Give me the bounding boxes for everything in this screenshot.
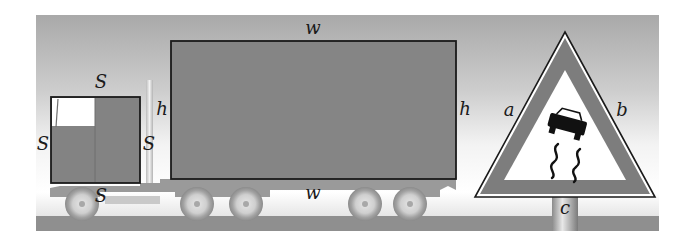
- label-container-right: h: [459, 98, 471, 119]
- label-sign-base: c: [560, 197, 570, 218]
- cab-square: [51, 97, 140, 183]
- fuel-tank: [105, 196, 160, 204]
- label-container-left: h: [156, 98, 168, 119]
- exhaust-stack: [146, 80, 153, 183]
- label-sign-right: b: [616, 99, 628, 120]
- label-cab-top: S: [95, 71, 107, 92]
- container-rectangle: [171, 41, 456, 179]
- label-cab-bottom: S: [95, 185, 107, 206]
- label-sign-left: a: [504, 99, 515, 120]
- label-cab-left: S: [37, 133, 49, 154]
- truck-and-sign-diagram: S S S S w w h h a b c: [0, 0, 700, 238]
- cab-window: [52, 98, 95, 126]
- label-cab-right: S: [143, 133, 155, 154]
- label-container-bottom: w: [305, 182, 321, 203]
- label-container-top: w: [305, 17, 321, 38]
